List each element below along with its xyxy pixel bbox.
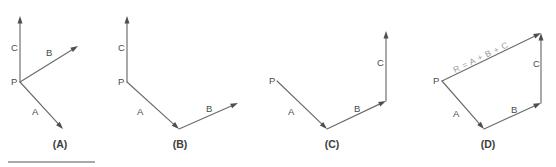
panel-d-vector-c-label: C	[533, 58, 540, 69]
panel-b-caption: (B)	[173, 138, 188, 150]
figure-canvas: CBAP(A)CABP(B)ABCP(C)ABCR = A + B + CP(D…	[0, 0, 556, 167]
vector-figure: CBAP(A)CABP(B)ABCP(C)ABCR = A + B + CP(D…	[0, 0, 556, 167]
panel-a-vector-c-label: C	[11, 42, 18, 53]
panel-c-vector-c-vector	[384, 31, 389, 101]
panel-d: ABCR = A + B + CP(D)	[433, 33, 544, 150]
panel-d-vector-a-vector	[442, 81, 484, 129]
panel-c-vector-b-arrowhead-icon	[378, 101, 386, 106]
panel-d-vector-b-shaft	[484, 105, 536, 129]
panel-b: CABP(B)	[118, 16, 238, 150]
panel-c: ABCP(C)	[269, 31, 389, 150]
panel-b-vector-a-shaft	[127, 82, 175, 125]
panel-a-vector-c-arrowhead-icon	[18, 16, 23, 24]
panel-c-vector-a-vector	[277, 81, 327, 129]
panel-b-vector-a-vector	[127, 82, 179, 129]
panels-group: CBAP(A)CABP(B)ABCP(C)ABCR = A + B + CP(D…	[11, 16, 544, 150]
panel-a-vector-a-label: A	[32, 106, 39, 117]
panel-a-vector-c-vector	[18, 16, 23, 82]
panel-a-vector-b-label: B	[46, 47, 52, 58]
panel-c-vector-c-label: C	[377, 57, 384, 68]
panel-a: CBAP(A)	[11, 16, 78, 150]
panel-a-vector-b-arrowhead-icon	[70, 46, 78, 52]
panel-b-origin-label: P	[118, 76, 124, 87]
panel-d-vector-b-label: B	[511, 104, 517, 115]
panel-b-vector-a-label: A	[137, 106, 144, 117]
panel-c-caption: (C)	[325, 138, 340, 150]
panel-b-vector-c-arrowhead-icon	[125, 16, 130, 24]
panel-a-vector-a-vector	[20, 82, 63, 129]
panel-d-origin-label: P	[433, 75, 439, 86]
panel-b-vector-c-vector	[125, 16, 130, 82]
panel-a-origin-label: P	[11, 76, 17, 87]
panel-c-origin-label: P	[269, 75, 275, 86]
panel-c-vector-c-arrowhead-icon	[384, 31, 389, 39]
panel-b-vector-b-label: B	[206, 103, 212, 114]
panel-d-vector-a-shaft	[442, 81, 480, 125]
panel-c-vector-b-label: B	[354, 103, 360, 114]
panel-c-vector-a-label: A	[288, 106, 295, 117]
panel-c-vector-a-shaft	[277, 81, 323, 125]
panel-b-vector-c-label: C	[118, 42, 125, 53]
panel-a-vector-a-shaft	[20, 82, 59, 125]
panel-b-vector-b-arrowhead-icon	[230, 103, 238, 108]
panel-d-resultant-label: R = A + B + C	[452, 40, 510, 75]
panel-d-caption: (D)	[481, 138, 496, 150]
panel-d-vector-a-label: A	[453, 108, 460, 119]
panel-a-caption: (A)	[53, 138, 68, 150]
panel-d-vector-b-arrowhead-icon	[533, 103, 541, 108]
